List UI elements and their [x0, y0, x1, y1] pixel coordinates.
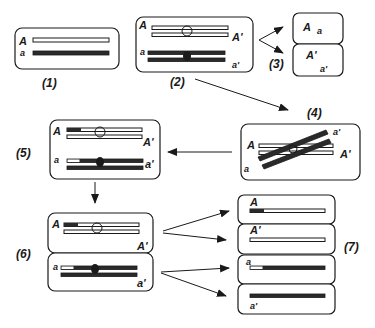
step-1-number: (1) — [42, 76, 57, 90]
converted-segment — [64, 223, 78, 227]
allele-label-a-prime: a' — [333, 127, 341, 137]
step-6-number: (6) — [16, 247, 31, 261]
spore-chromatid-a-prime — [250, 294, 325, 298]
spore-chromatid-A-prime — [250, 238, 325, 242]
converted-segment — [250, 209, 264, 213]
allele-label-A: A — [51, 218, 60, 230]
meiosis-diagram: A a (1) A A' a a' (2) A a A' a' (3) (4) … — [0, 0, 375, 328]
allele-label-A: A — [52, 125, 61, 137]
allele-label-A-prime: A' — [249, 224, 261, 236]
arrow-6-to-7A-prime — [163, 233, 226, 240]
allele-label-a-prime: a' — [145, 158, 154, 170]
step-4-number: (4) — [307, 106, 322, 120]
converted-segment — [62, 267, 74, 270]
allele-label-A-prime: A' — [142, 136, 154, 148]
step-1-box — [15, 28, 119, 69]
step-5-number: (5) — [16, 146, 31, 160]
step-3-cell-2 — [293, 44, 343, 76]
step-2-number: (2) — [170, 75, 185, 89]
step-6-panel: A A' a a' — [48, 213, 153, 291]
step-3-number: (3) — [269, 57, 284, 71]
step-7-number: (7) — [344, 240, 359, 254]
allele-label-A-prime: A' — [136, 240, 148, 252]
arrow-6-to-7a-prime — [161, 273, 226, 296]
arrow-2-to-3a — [259, 27, 283, 40]
converted-segment — [251, 267, 263, 270]
allele-label-a: a — [53, 262, 58, 272]
allele-label-A: A — [18, 35, 27, 47]
step-5-panel: A A' a a' — [50, 120, 160, 179]
converted-segment — [67, 128, 81, 132]
allele-label-A-prime: A' — [231, 31, 243, 43]
centromere-a — [96, 157, 104, 167]
chromosome-a — [33, 51, 109, 55]
allele-label-A-prime: A' — [339, 148, 351, 160]
allele-label-A: A — [249, 196, 258, 208]
allele-label-a-prime: a' — [320, 64, 328, 74]
step-4-panel: A a' A' a — [241, 124, 360, 180]
arrow-6-to-7A — [163, 211, 229, 231]
allele-label-A-prime: A' — [305, 49, 317, 61]
allele-label-a: a — [54, 155, 59, 165]
allele-label-a: a — [244, 164, 249, 174]
allele-label-a: a — [140, 47, 145, 57]
chromatid-a-prime — [67, 166, 143, 170]
allele-label-A: A — [302, 21, 311, 33]
arrow-6-to-7a — [161, 268, 229, 272]
chromatid-A-prime — [67, 135, 142, 139]
chromatid-a-prime — [61, 273, 137, 277]
allele-label-a: a — [20, 48, 25, 58]
arrow-2-to-3b — [259, 40, 283, 53]
allele-label-a-prime: a' — [250, 301, 258, 311]
allele-label-a-prime: a' — [232, 60, 240, 70]
arrow-2-to-4 — [195, 79, 288, 110]
allele-label-a: a — [317, 26, 322, 36]
step-2-panel: A A' a a' — [136, 17, 253, 72]
step-3-panel: A a A' a' — [293, 13, 343, 76]
allele-label-a-prime: a' — [137, 277, 146, 289]
allele-label-A: A — [138, 19, 147, 31]
chromosome-A — [33, 38, 109, 42]
allele-label-A: A — [246, 139, 255, 151]
centromere-a — [183, 51, 191, 61]
step-7-panel: A A' a a' — [238, 195, 335, 314]
converted-segment — [68, 160, 80, 163]
centromere-a — [91, 264, 99, 274]
allele-label-a: a — [246, 257, 251, 267]
step-1-panel: A a — [15, 28, 119, 69]
